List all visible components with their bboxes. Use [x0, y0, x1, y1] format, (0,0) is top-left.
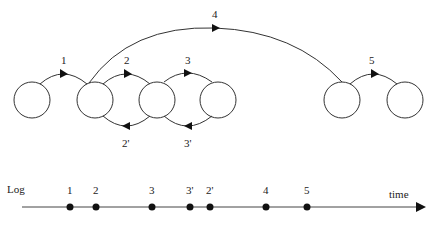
arc-label-2: 2 — [124, 54, 130, 66]
arrowhead-3-prime — [184, 122, 192, 130]
arc-label-1: 1 — [61, 54, 67, 66]
arrowhead-1 — [60, 69, 68, 78]
arc-label-4: 4 — [212, 8, 218, 20]
arc-label-5: 5 — [369, 54, 375, 66]
timeline-start-label: Log — [7, 183, 25, 195]
arrowhead-2-prime — [122, 122, 130, 130]
event-label-1: 1 — [67, 184, 73, 196]
arc-label-3: 3 — [185, 54, 191, 66]
state-node-1 — [14, 82, 50, 118]
event-label-3-prime: 3' — [186, 184, 194, 196]
event-label-2-prime: 2' — [206, 184, 214, 196]
state-node-2 — [77, 82, 113, 118]
timeline-end-label: time — [389, 188, 409, 200]
event-dot-5 — [304, 204, 311, 211]
arrowhead-4 — [212, 24, 220, 32]
event-dot-2 — [93, 204, 100, 211]
arc-label-2-prime: 2' — [122, 137, 130, 149]
event-dot-2-prime — [207, 204, 214, 211]
state-node-5 — [324, 82, 360, 118]
diagram-canvas: 1 2 3 4 5 2' 3' Log time 1 2 3 3' 2' 4 5 — [0, 0, 434, 230]
event-dot-4 — [263, 204, 270, 211]
state-node-4 — [200, 82, 236, 118]
event-dot-3 — [149, 204, 156, 211]
state-node-6 — [387, 82, 423, 118]
event-label-4: 4 — [263, 184, 269, 196]
arc-label-3-prime: 3' — [184, 137, 192, 149]
event-label-2: 2 — [93, 184, 99, 196]
event-label-3: 3 — [149, 184, 155, 196]
state-node-3 — [139, 82, 175, 118]
node-group — [14, 82, 423, 118]
event-dot-3-prime — [187, 204, 194, 211]
arrowhead-3 — [184, 69, 192, 77]
timeline-arrowhead — [416, 202, 426, 212]
arrowhead-2 — [124, 69, 132, 78]
arrowhead-5 — [371, 69, 379, 78]
event-label-5: 5 — [304, 184, 310, 196]
event-dot-1 — [67, 204, 74, 211]
